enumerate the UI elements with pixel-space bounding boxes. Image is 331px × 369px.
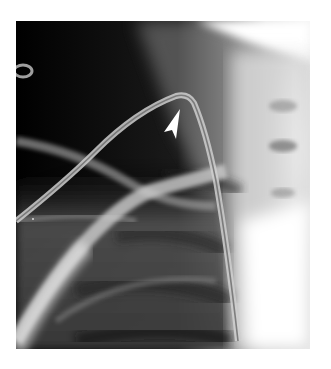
xray-image bbox=[16, 21, 310, 349]
lung-field bbox=[16, 158, 231, 349]
vertebral-disc bbox=[269, 100, 297, 112]
vertebral-disc bbox=[269, 140, 297, 152]
vertebral-disc bbox=[271, 188, 295, 198]
